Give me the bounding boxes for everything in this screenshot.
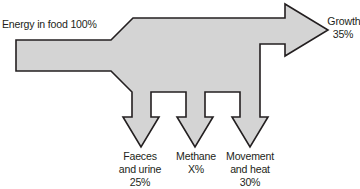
output-label-faeces: Faeces and urine 25% [114, 150, 166, 189]
input-label-text: Energy in food 100% [2, 18, 97, 31]
faeces-label-line2: and urine [114, 163, 166, 176]
movement-label-line2: and heat [224, 163, 276, 176]
input-label: Energy in food 100% [2, 18, 97, 31]
growth-value: 35% [327, 28, 358, 41]
methane-label: Methane [172, 150, 220, 163]
methane-value: X% [172, 163, 220, 176]
faeces-label: Faeces [114, 150, 166, 163]
movement-label: Movement [224, 150, 276, 163]
output-label-movement: Movement and heat 30% [224, 150, 276, 189]
output-label-methane: Methane X% [172, 150, 220, 176]
output-label-growth: Growth 35% [327, 15, 358, 41]
faeces-value: 25% [114, 176, 166, 189]
growth-label: Growth [327, 15, 358, 28]
movement-value: 30% [224, 176, 276, 189]
